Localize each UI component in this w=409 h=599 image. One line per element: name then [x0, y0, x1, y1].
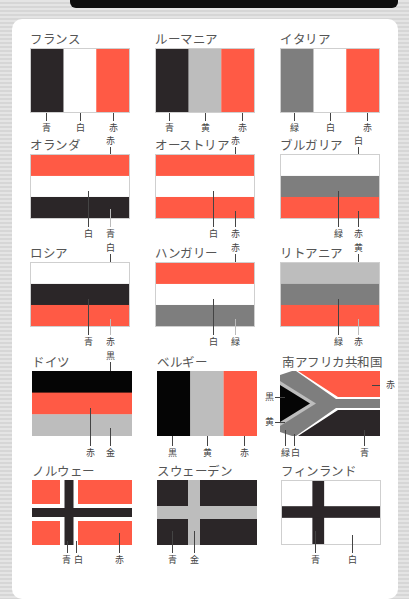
color-label: 白 [84, 229, 93, 239]
color-label: 緑 [290, 123, 299, 133]
flag-image-romania [155, 48, 255, 113]
color-label: 白 [326, 123, 335, 133]
color-label: 白 [354, 136, 363, 146]
color-label: 白 [291, 448, 300, 458]
color-label: 青 [42, 123, 51, 133]
flag-title: フランス [30, 33, 80, 47]
flag-title: ロシア [30, 247, 68, 261]
color-label: 青 [311, 555, 320, 565]
color-label: 赤 [238, 123, 247, 133]
flag-image-france [30, 48, 130, 113]
color-label: 赤 [106, 136, 115, 146]
flag-title: オランダ [30, 139, 80, 153]
flag-image-austria [155, 154, 255, 219]
color-label: 黒 [265, 392, 274, 402]
color-label: 青 [84, 337, 93, 347]
flag-title: ベルギー [157, 356, 207, 370]
flag-image-bulgaria [280, 154, 380, 219]
color-label: 緑 [334, 229, 343, 239]
flag-title: 南アフリカ共和国 [282, 356, 382, 370]
color-label: 黒 [106, 351, 115, 361]
color-label: 白 [209, 337, 218, 347]
color-label: 白 [74, 555, 83, 565]
color-label: 青 [360, 448, 369, 458]
flag-image-italy [280, 48, 380, 113]
color-label: 黄 [354, 243, 363, 253]
flag-image-belgium [157, 371, 257, 436]
color-label: 赤 [106, 337, 115, 347]
flag-image-russia [30, 262, 130, 327]
color-label: 赤 [115, 555, 124, 565]
color-label: 緑 [231, 337, 240, 347]
flag-title: ルーマニア [155, 33, 218, 47]
flag-image-norway [32, 480, 132, 545]
flag-title: ハンガリー [155, 247, 218, 261]
color-label: 青 [62, 555, 71, 565]
color-label: 白 [209, 229, 218, 239]
color-label: 赤 [231, 229, 240, 239]
color-label: 黄 [203, 448, 212, 458]
color-label: 金 [190, 555, 199, 565]
flag-title: フィンランド [281, 465, 356, 479]
color-label: 赤 [354, 229, 363, 239]
color-label: 黄 [201, 123, 210, 133]
color-label: 金 [106, 448, 115, 458]
color-label: 白 [348, 555, 357, 565]
flag-title: イタリア [280, 33, 330, 47]
color-label: 赤 [354, 337, 363, 347]
flag-image-hungary [155, 262, 255, 327]
flag-image-netherlands [30, 154, 130, 219]
color-label: 白 [76, 123, 85, 133]
color-label: 赤 [231, 136, 240, 146]
color-label: 黄 [265, 417, 274, 427]
color-label: 赤 [240, 448, 249, 458]
flag-image-south-africa [280, 371, 380, 436]
color-label: 青 [168, 555, 177, 565]
color-label: 黒 [168, 448, 177, 458]
flag-title: オーストリア [155, 139, 229, 153]
color-label: 緑 [334, 337, 343, 347]
color-label: 青 [165, 123, 174, 133]
color-label: 白 [106, 243, 115, 253]
color-label: 青 [106, 229, 115, 239]
color-label: 赤 [363, 123, 372, 133]
color-label: 赤 [231, 243, 240, 253]
flag-title: ドイツ [32, 356, 70, 370]
color-label: 赤 [109, 123, 118, 133]
flag-title: ノルウェー [32, 465, 95, 479]
top-header-bar [70, 0, 398, 8]
flag-title: リトアニア [280, 247, 343, 261]
flag-image-germany [32, 371, 132, 436]
flag-image-lithuania [280, 262, 380, 327]
color-label: 赤 [386, 380, 395, 390]
flag-title: ブルガリア [280, 139, 343, 153]
color-label: 赤 [86, 448, 95, 458]
flag-title: スウェーデン [157, 465, 232, 479]
flag-image-finland [281, 480, 381, 545]
color-label: 緑 [281, 448, 290, 458]
